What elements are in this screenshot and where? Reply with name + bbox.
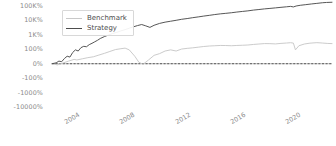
y-axis-tick: -1000%: [18, 89, 43, 97]
legend-swatch-icon: [66, 28, 82, 29]
legend-label: Strategy: [87, 23, 117, 33]
y-axis-tick: 100%: [24, 45, 43, 53]
legend-swatch-icon: [66, 18, 82, 19]
cumulative-returns-chart: 100K%10K%1K%100%0%-100%-1000%-10000% 200…: [0, 0, 336, 146]
chart-legend: BenchmarkStrategy: [62, 10, 134, 36]
x-axis-tick: 2012: [174, 111, 192, 126]
legend-item-benchmark[interactable]: Benchmark: [66, 13, 127, 23]
x-axis-tick: 2008: [118, 111, 136, 126]
legend-item-strategy[interactable]: Strategy: [66, 23, 127, 33]
legend-label: Benchmark: [87, 13, 127, 23]
x-axis-tick: 2004: [63, 111, 81, 126]
y-axis-tick: 10K%: [24, 16, 43, 24]
x-axis-tick: 2020: [284, 111, 302, 126]
y-axis-tick: 1K%: [28, 31, 43, 39]
series-line-benchmark: [52, 43, 332, 65]
x-axis-tick-labels: 20042008201220162020: [0, 113, 336, 146]
y-axis-tick: 100K%: [20, 2, 43, 10]
x-axis-tick: 2016: [229, 111, 247, 126]
y-axis-tick: -100%: [22, 74, 43, 82]
y-axis-tick: -10000%: [14, 103, 43, 111]
y-axis-tick: 0%: [33, 60, 43, 68]
